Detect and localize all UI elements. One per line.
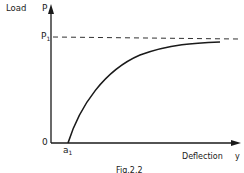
y-axis-symbol: P — [42, 4, 47, 13]
asymptote-dashed-line — [53, 37, 238, 39]
chart-canvas — [0, 0, 244, 173]
x-axis-title: Deflection — [182, 153, 223, 161]
y-axis-title: Load — [6, 4, 26, 13]
origin-label: 0 — [42, 138, 48, 147]
y-axis-arrow-icon — [48, 4, 54, 14]
intercept-label: a1 — [63, 146, 72, 156]
x-axis-symbol: y — [235, 153, 240, 161]
figure-caption: Fig.2.2 — [116, 167, 143, 173]
intercept-label-subscript: 1 — [69, 149, 73, 156]
load-deflection-curve — [68, 42, 220, 143]
asymptote-label: P1 — [41, 32, 50, 42]
x-axis-arrow-icon — [231, 140, 241, 146]
asymptote-label-subscript: 1 — [46, 35, 50, 42]
load-deflection-figure: Load P P1 0 a1 Deflection y Fig.2.2 — [0, 0, 244, 173]
